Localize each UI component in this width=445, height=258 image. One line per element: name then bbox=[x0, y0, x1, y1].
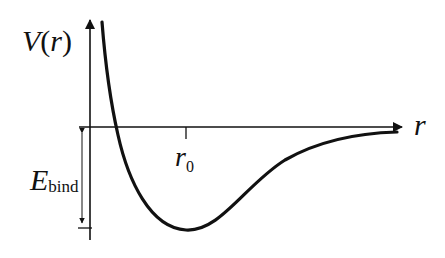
potential-diagram: V(r) r r0 Ebind bbox=[0, 0, 445, 258]
potential-curve bbox=[102, 22, 397, 230]
x-axis-label: r bbox=[414, 108, 426, 141]
y-axis-label: V(r) bbox=[22, 24, 72, 58]
r0-label: r0 bbox=[175, 141, 194, 175]
ebind-label: Ebind bbox=[29, 163, 79, 196]
